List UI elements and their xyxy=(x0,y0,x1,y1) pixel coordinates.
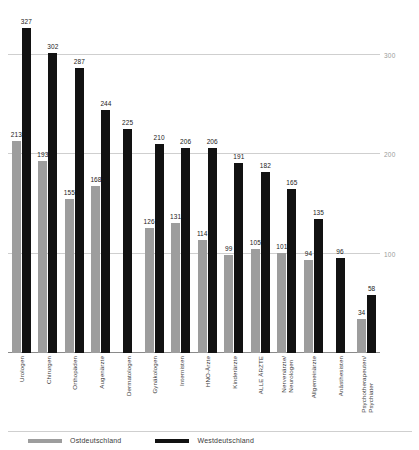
bar-group: 96 xyxy=(327,10,354,353)
legend-swatch xyxy=(155,439,189,443)
bar-east: 193 xyxy=(38,161,47,353)
bar-value-label: 96 xyxy=(336,248,343,256)
x-category: Chirurgen xyxy=(35,356,62,428)
bar-west: 96 xyxy=(336,258,345,353)
bar-value-label: 34 xyxy=(358,309,365,317)
legend-divider xyxy=(8,431,412,432)
bar-east: 168 xyxy=(91,186,100,353)
x-category: Allgemeinärzte xyxy=(300,356,327,428)
x-category: Gynäkologen xyxy=(141,356,168,428)
x-axis-category-labels: UrologenChirurgenOrthopädenAugenärzteDer… xyxy=(8,356,380,428)
bar-group: 131206 xyxy=(167,10,194,353)
bar-west: 165 xyxy=(287,189,296,353)
bar-chart: 2133271933021552871682442251262101312061… xyxy=(0,0,419,450)
bar-value-label: 327 xyxy=(21,18,32,26)
x-category: Nervenärzte/ Neurologen xyxy=(274,356,301,428)
x-category: HNO-Ärzte xyxy=(194,356,221,428)
x-category-label: Psychotherapeuten/ Psychiater xyxy=(360,356,374,413)
bar-east: 105 xyxy=(251,249,260,353)
x-category: Orthopäden xyxy=(61,356,88,428)
bar-group: 225 xyxy=(114,10,141,353)
x-category: Psychotherapeuten/ Psychiater xyxy=(353,356,380,428)
bar-east: 94 xyxy=(304,260,313,353)
x-category-label: HNO-Ärzte xyxy=(204,356,211,387)
y-tick-label-100: 100 xyxy=(384,250,395,257)
bar-groups: 2133271933021552871682442251262101312061… xyxy=(8,10,380,353)
x-category: Augenärzte xyxy=(88,356,115,428)
bar-west: 206 xyxy=(208,148,217,353)
bar-value-label: 206 xyxy=(180,138,191,146)
x-category-label: Kinderärzte xyxy=(230,356,237,389)
bar-group: 101165 xyxy=(274,10,301,353)
chart-legend: OstdeutschlandWestdeutschland xyxy=(28,437,288,444)
legend-item: Ostdeutschland xyxy=(28,437,121,444)
legend-item: Westdeutschland xyxy=(155,437,254,444)
bar-value-label: 182 xyxy=(260,162,271,170)
bar-west: 206 xyxy=(181,148,190,353)
bar-group: 3458 xyxy=(353,10,380,353)
bar-east: 101 xyxy=(277,253,286,353)
bar-value-label: 126 xyxy=(144,218,155,226)
bar-west: 135 xyxy=(314,219,323,353)
bar-value-label: 193 xyxy=(37,151,48,159)
bar-group: 193302 xyxy=(35,10,62,353)
bar-value-label: 101 xyxy=(276,243,287,251)
bar-value-label: 168 xyxy=(90,176,101,184)
bar-west: 210 xyxy=(155,144,164,353)
bar-east: 126 xyxy=(145,228,154,353)
bar-west: 191 xyxy=(234,163,243,353)
bar-east: 99 xyxy=(224,255,233,353)
y-tick-label-300: 300 xyxy=(384,51,395,58)
x-category-label: Anästhesisten xyxy=(337,356,344,396)
bar-value-label: 191 xyxy=(233,153,244,161)
bar-west: 302 xyxy=(48,53,57,353)
bar-group: 155287 xyxy=(61,10,88,353)
bar-value-label: 206 xyxy=(207,138,218,146)
bar-east: 213 xyxy=(12,141,21,353)
bar-group: 126210 xyxy=(141,10,168,353)
bar-value-label: 99 xyxy=(225,245,232,253)
bar-value-label: 135 xyxy=(313,209,324,217)
bar-value-label: 105 xyxy=(250,239,261,247)
x-category-label: Chirurgen xyxy=(44,356,51,384)
bar-value-label: 155 xyxy=(64,189,75,197)
legend-swatch xyxy=(28,439,62,443)
bar-group: 94135 xyxy=(300,10,327,353)
legend-label: Ostdeutschland xyxy=(70,437,121,444)
x-category-label: Dermatologen xyxy=(124,356,131,396)
bar-east: 114 xyxy=(198,240,207,353)
bar-group: 105182 xyxy=(247,10,274,353)
x-category: Urologen xyxy=(8,356,35,428)
x-category-label: Internisten xyxy=(177,356,184,386)
bar-value-label: 302 xyxy=(47,43,58,51)
bar-group: 213327 xyxy=(8,10,35,353)
bar-west: 244 xyxy=(101,110,110,353)
bar-group: 114206 xyxy=(194,10,221,353)
x-category: Anästhesisten xyxy=(327,356,354,428)
y-tick-label-200: 200 xyxy=(384,151,395,158)
x-category: Dermatologen xyxy=(114,356,141,428)
x-category-label: Gynäkologen xyxy=(151,356,158,394)
bar-value-label: 225 xyxy=(122,119,133,127)
bar-group: 99191 xyxy=(221,10,248,353)
bar-value-label: 287 xyxy=(74,58,85,66)
x-category-label: Augenärzte xyxy=(97,356,104,389)
x-category-label: Nervenärzte/ Neurologen xyxy=(280,356,294,393)
x-category: ALLE ÄRZTE xyxy=(247,356,274,428)
x-category-label: Orthopäden xyxy=(71,356,78,390)
bar-group: 168244 xyxy=(88,10,115,353)
x-category-label: Allgemeinärzte xyxy=(310,356,317,398)
bar-value-label: 165 xyxy=(286,179,297,187)
bar-value-label: 213 xyxy=(11,131,22,139)
bar-value-label: 210 xyxy=(154,134,165,142)
bar-west: 287 xyxy=(75,68,84,353)
bar-west: 225 xyxy=(123,129,132,353)
bar-east: 155 xyxy=(65,199,74,353)
bar-value-label: 94 xyxy=(305,250,312,258)
bar-value-label: 244 xyxy=(100,100,111,108)
bar-value-label: 58 xyxy=(368,285,375,293)
bar-west: 182 xyxy=(261,172,270,353)
plot-area: 2133271933021552871682442251262101312061… xyxy=(8,10,380,353)
legend-label: Westdeutschland xyxy=(197,437,254,444)
bar-value-label: 114 xyxy=(197,230,208,238)
